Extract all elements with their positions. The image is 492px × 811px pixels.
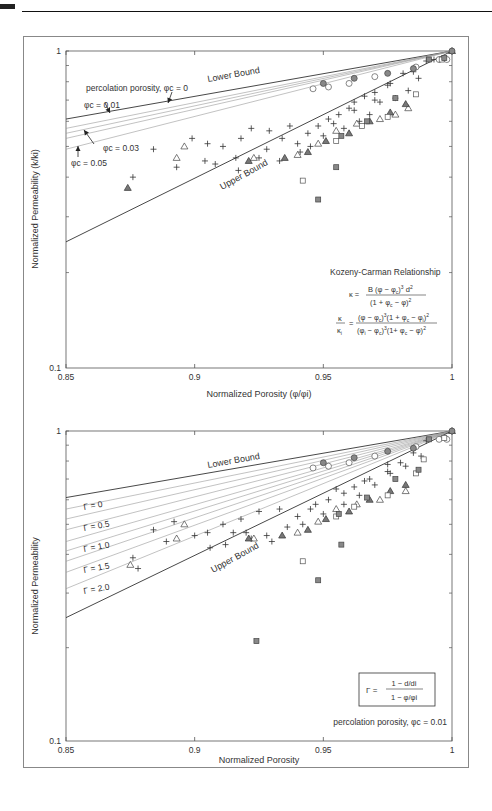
bottom-marker-plus: [223, 542, 229, 548]
bottom-marker-open-triangle: [294, 529, 301, 535]
bottom-marker-filled-square: [365, 495, 370, 500]
bottom-line: [66, 431, 452, 542]
bottom-marker-open-square: [352, 504, 357, 509]
bottom-marker-plus: [325, 497, 331, 503]
bottom-x-tick-label: 0.9: [189, 745, 201, 755]
bottom-x-tick-label: 1: [450, 745, 455, 755]
bottom-marker-plus: [367, 476, 373, 482]
bottom-line: [66, 431, 452, 498]
bottom-marker-plus: [130, 555, 136, 561]
bottom-marker-plus: [256, 508, 262, 514]
bottom-marker-plus: [403, 463, 409, 469]
bottom-marker-plus: [362, 478, 368, 484]
bottom-marker-plus: [264, 533, 270, 539]
gamma-05-label: Γ = 0.5: [83, 519, 111, 533]
bottom-marker-open-triangle: [315, 518, 322, 524]
bottom-marker-plus: [220, 521, 226, 527]
bottom-marker-plus: [192, 533, 198, 539]
bottom-marker-plus: [207, 545, 213, 551]
bottom-line: [66, 431, 452, 561]
bottom-x-axis-label: Normalized Porosity: [219, 755, 300, 765]
bottom-marker-open-square: [421, 457, 426, 462]
bottom-marker-filled-square: [426, 437, 431, 442]
bottom-marker-filled-square: [339, 542, 344, 547]
bottom-marker-plus: [243, 530, 249, 536]
bottom-line: [66, 431, 452, 509]
bottom-marker-open-triangle: [173, 535, 180, 541]
bottom-marker-plus: [351, 484, 357, 490]
bottom-marker-plus: [295, 513, 301, 519]
gamma-15-label: Γ = 1.5: [83, 561, 111, 575]
bottom-marker-plus: [205, 530, 211, 536]
bottom-marker-filled-square: [336, 511, 341, 516]
bottom-x-tick-label: 0.95: [315, 745, 332, 755]
bottom-marker-open-circle: [372, 453, 378, 459]
bottom-marker-plus: [238, 516, 244, 522]
bottom-percolation-label: percolation porosity, φc = 0.01: [333, 717, 447, 727]
bottom-marker-open-triangle: [376, 496, 383, 502]
bottom-marker-plus: [313, 501, 319, 507]
bottom-marker-plus: [277, 506, 283, 512]
bottom-marker-open-triangle: [333, 506, 340, 512]
bottom-marker-filled-square: [416, 467, 421, 472]
bottom-y-tick-label: 0.1: [49, 736, 61, 746]
bottom-marker-open-square: [442, 435, 447, 440]
bottom-lower-bound-label: Lower Bound: [207, 451, 261, 470]
gamma-20-label: Γ = 2.0: [83, 582, 111, 596]
bottom-marker-filled-circle: [449, 428, 455, 434]
bottom-marker-plus: [269, 539, 275, 545]
bottom-marker-filled-circle: [320, 460, 326, 466]
bottom-marker-plus: [356, 492, 362, 498]
bottom-marker-filled-square: [316, 578, 321, 583]
bottom-marker-plus: [135, 566, 141, 572]
bottom-marker-plus: [333, 486, 339, 492]
bottom-marker-plus: [163, 539, 169, 545]
bottom-marker-filled-square: [254, 639, 259, 644]
gamma-10-label: Γ = 1.0: [83, 540, 111, 554]
bottom-marker-open-circle: [436, 436, 442, 442]
bottom-marker-plus: [385, 461, 391, 467]
bottom-marker-open-circle: [310, 465, 316, 471]
bottom-marker-open-square: [385, 493, 390, 498]
gamma-0-label: Γ = 0: [83, 499, 104, 512]
bottom-marker-open-triangle: [402, 488, 409, 494]
bottom-x-tick-label: 0.85: [58, 745, 75, 755]
bottom-line: [66, 431, 452, 519]
gamma-definition-denominator: 1 − φ/φi: [391, 693, 418, 702]
bottom-marker-plus: [341, 501, 347, 507]
bottom-marker-filled-square: [393, 477, 398, 482]
bottom-y-axis-label: Normalized Permeability: [30, 537, 40, 635]
bottom-line: [66, 431, 452, 551]
bottom-marker-filled-circle: [351, 455, 357, 461]
bottom-marker-open-triangle: [181, 521, 188, 527]
bottom-marker-plus: [150, 527, 156, 533]
bottom-marker-open-square: [300, 559, 305, 564]
chart-bottom: 0.850.90.9510.11 Normalized Permeability…: [0, 0, 492, 811]
gamma-definition-box: Γ = 1 − d/di 1 − φ/φi: [359, 673, 435, 706]
bottom-marker-plus: [372, 482, 378, 488]
bottom-marker-plus: [284, 524, 290, 530]
bottom-marker-plus: [398, 460, 404, 466]
bottom-marker-filled-triangle: [402, 481, 409, 487]
bottom-marker-filled-triangle: [279, 532, 286, 538]
bottom-marker-plus: [230, 530, 236, 536]
bottom-marker-filled-triangle: [304, 526, 311, 532]
gamma-definition-numerator: 1 − d/di: [392, 679, 417, 688]
bottom-marker-open-triangle: [127, 561, 134, 567]
bottom-marker-plus: [300, 521, 306, 527]
bottom-marker-plus: [307, 506, 313, 512]
bottom-marker-filled-circle: [410, 445, 416, 451]
bottom-y-tick-label: 1: [56, 426, 61, 436]
bottom-marker-filled-circle: [385, 448, 391, 454]
bottom-marker-open-circle: [346, 460, 352, 466]
bottom-upper-bound-label: Upper Bound: [209, 540, 260, 574]
bottom-marker-plus: [341, 490, 347, 496]
bottom-marker-plus: [171, 519, 177, 525]
gamma-definition-lhs: Γ =: [366, 686, 378, 695]
